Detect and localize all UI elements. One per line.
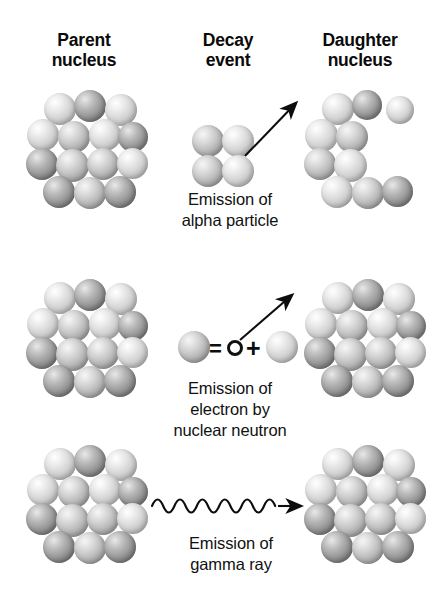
- nucleon-sphere: [117, 337, 148, 368]
- nucleon-sphere: [27, 474, 59, 506]
- nucleon-sphere: [89, 308, 121, 340]
- caption-beta-decay: Emission of electron by nuclear neutron: [138, 378, 322, 441]
- nucleon-sphere: [26, 148, 58, 180]
- caption-alpha-decay: Emission of alpha particle: [150, 189, 310, 231]
- nucleon-sphere: [305, 474, 337, 506]
- nucleon-sphere: [74, 532, 106, 564]
- neutron-sphere: [178, 331, 210, 363]
- nucleon-sphere: [352, 366, 384, 398]
- nucleon-sphere: [192, 125, 224, 157]
- nucleon-sphere: [304, 337, 336, 369]
- plus-sign: +: [246, 336, 261, 361]
- nucleon-sphere: [386, 96, 414, 124]
- nucleon-sphere: [365, 337, 397, 369]
- nucleon-sphere: [87, 337, 119, 369]
- nucleon-sphere: [26, 503, 58, 535]
- column-header-parent-nucleus: Parent nucleus: [10, 30, 158, 70]
- nucleon-sphere: [382, 365, 414, 397]
- decay-diagram: Parent nucleus Decay event Daughter nucl…: [0, 0, 433, 593]
- nucleon-sphere: [27, 308, 59, 340]
- column-header-decay-event: Decay event: [160, 30, 296, 70]
- nucleon-sphere: [321, 176, 353, 208]
- equals-sign: =: [209, 338, 222, 360]
- nucleon-sphere: [222, 155, 254, 187]
- nucleon-sphere: [117, 148, 148, 179]
- nucleon-sphere: [352, 532, 384, 564]
- nucleon-sphere: [74, 366, 106, 398]
- nucleon-sphere: [382, 176, 413, 207]
- nucleon-sphere: [104, 365, 136, 397]
- nucleon-sphere: [43, 365, 75, 397]
- daughter-nucleus-alpha: [300, 88, 430, 212]
- nucleon-sphere: [192, 155, 224, 187]
- proton-sphere: [266, 331, 298, 363]
- nucleon-sphere: [74, 279, 106, 311]
- parent-nucleus-beta: [22, 277, 152, 401]
- nucleon-sphere: [304, 148, 336, 180]
- nucleon-sphere: [382, 531, 414, 563]
- nucleon-sphere: [365, 503, 397, 535]
- nucleon-sphere: [352, 177, 384, 209]
- emitted-alpha-particle: [192, 125, 256, 189]
- nucleon-sphere: [89, 119, 121, 151]
- electron-circle-icon: [227, 340, 243, 356]
- nucleon-sphere: [367, 474, 399, 506]
- caption-gamma-decay: Emission of gamma ray: [146, 533, 316, 575]
- beta-decay-equation: = +: [178, 330, 298, 370]
- nucleon-sphere: [26, 337, 58, 369]
- nucleon-sphere: [305, 119, 338, 152]
- nucleon-sphere: [352, 445, 384, 477]
- daughter-nucleus-gamma: [300, 443, 430, 567]
- nucleon-sphere: [352, 90, 382, 120]
- nucleon-sphere: [74, 177, 106, 209]
- nucleon-sphere: [27, 119, 59, 151]
- nucleon-sphere: [89, 474, 121, 506]
- nucleon-sphere: [117, 503, 148, 534]
- parent-nucleus-alpha: [22, 88, 152, 212]
- nucleon-sphere: [222, 125, 254, 157]
- nucleon-sphere: [352, 279, 384, 311]
- nucleon-sphere: [367, 308, 399, 340]
- nucleon-sphere: [43, 531, 75, 563]
- nucleon-sphere: [74, 445, 106, 477]
- nucleon-sphere: [321, 531, 353, 563]
- nucleon-sphere: [104, 531, 136, 563]
- nucleon-sphere: [305, 308, 337, 340]
- nucleon-sphere: [43, 176, 75, 208]
- gamma-ray-wave-icon: [150, 487, 310, 525]
- nucleon-sphere: [87, 503, 119, 535]
- parent-nucleus-gamma: [22, 443, 152, 567]
- nucleon-sphere: [395, 337, 426, 368]
- column-header-daughter-nucleus: Daughter nucleus: [290, 30, 430, 70]
- nucleon-sphere: [87, 148, 119, 180]
- nucleon-sphere: [104, 176, 136, 208]
- nucleon-sphere: [74, 90, 106, 122]
- nucleon-sphere: [321, 365, 353, 397]
- nucleon-sphere: [395, 503, 426, 534]
- nucleon-sphere: [304, 503, 336, 535]
